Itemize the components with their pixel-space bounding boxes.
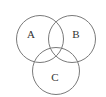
circle-a [17, 16, 64, 63]
label-a: A [27, 28, 35, 40]
venn-diagram: A B C [0, 0, 106, 97]
label-c: C [51, 71, 58, 83]
label-b: B [72, 28, 79, 40]
